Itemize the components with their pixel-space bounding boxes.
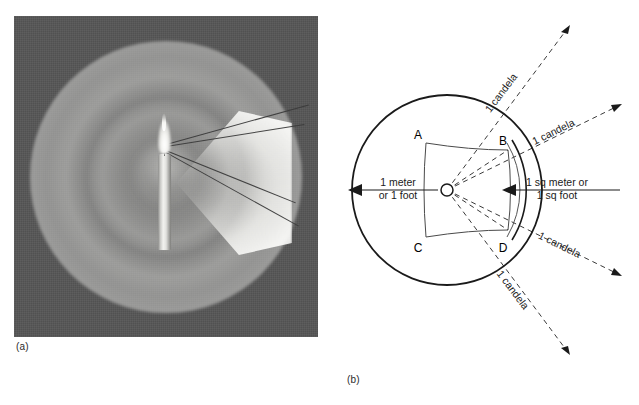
cone-edges bbox=[447, 150, 508, 230]
cone-edge-to-B bbox=[447, 150, 508, 190]
photo-frame bbox=[14, 16, 318, 337]
candela-ray-1-line bbox=[447, 25, 570, 190]
panel-b-caption: (b) bbox=[347, 374, 360, 385]
point-label-C: C bbox=[414, 241, 423, 255]
cone-edge-to-D bbox=[447, 190, 508, 230]
candela-label-2: 1 candela bbox=[530, 116, 576, 147]
panel-b-diagram: 1 meter or 1 foot 1 sq meter or 1 sq foo… bbox=[330, 0, 639, 405]
area-arrowhead bbox=[502, 184, 516, 196]
candela-label-1: 1 candela bbox=[482, 71, 519, 115]
point-label-B: B bbox=[499, 134, 507, 148]
arrowhead-ray-4 bbox=[561, 346, 570, 355]
candela-label-4: 1 candela bbox=[495, 268, 532, 312]
panel-a-caption: (a) bbox=[16, 341, 29, 352]
point-label-D: D bbox=[499, 241, 508, 255]
radius-label-line2: or 1 foot bbox=[379, 189, 418, 201]
panel-a-photograph: (a) bbox=[0, 0, 330, 405]
figure-root: (a) bbox=[0, 0, 639, 405]
area-label-line1: 1 sq meter or bbox=[526, 176, 588, 188]
candela-ray-3-line bbox=[447, 190, 620, 275]
radius-arrowhead bbox=[348, 184, 362, 196]
edge-CD bbox=[426, 230, 508, 237]
candle-flame-tip bbox=[162, 113, 166, 131]
candle-body bbox=[158, 154, 171, 250]
arrowhead-ray-1 bbox=[561, 25, 570, 34]
diagram-svg: 1 meter or 1 foot 1 sq meter or 1 sq foo… bbox=[330, 0, 639, 405]
point-source-marker bbox=[441, 184, 453, 196]
area-label-line2: 1 sq foot bbox=[537, 189, 577, 201]
arrowhead-ray-3 bbox=[611, 268, 622, 276]
radius-label-line1: 1 meter bbox=[380, 176, 416, 188]
candela-label-3: 1 candela bbox=[537, 229, 583, 260]
arrowhead-ray-2 bbox=[611, 104, 622, 112]
edge-AB bbox=[426, 143, 508, 150]
point-label-A: A bbox=[414, 128, 422, 142]
